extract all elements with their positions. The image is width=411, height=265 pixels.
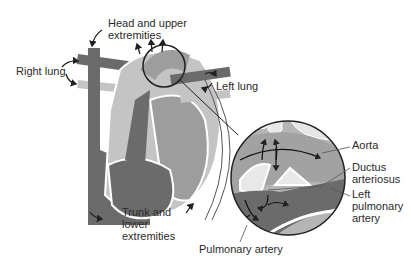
heart-main — [77, 45, 238, 225]
label-pulmonary-artery: Pulmonary artery — [199, 243, 283, 255]
label-head-upper-extremities: Head and upper extremities — [108, 17, 187, 41]
label-aorta: Aorta — [352, 139, 378, 151]
label-trunk-lower-extremities: Trunk and lower extremities — [122, 206, 175, 242]
heart-illustration — [0, 0, 411, 265]
label-right-lung: Right lung — [16, 65, 66, 77]
label-left-lung: Left lung — [216, 80, 258, 92]
label-left-pulmonary-artery: Left pulmonary artery — [352, 188, 403, 224]
fetal-circulation-diagram: Head and upper extremities Right lung Le… — [0, 0, 411, 265]
label-ductus-arteriosus: Ductus arteriosus — [352, 161, 400, 185]
